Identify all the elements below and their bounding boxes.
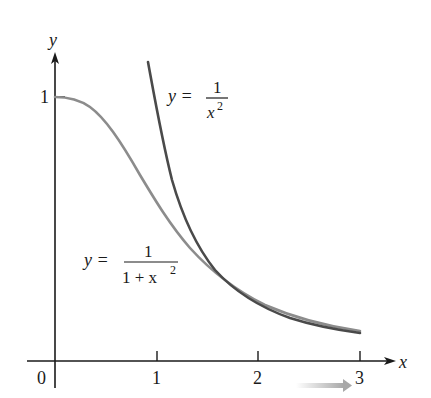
- label-curve-1-over-1-plus-x-squared: y = 1 1 + x 2: [82, 242, 178, 287]
- y-tick-label-1: 1: [40, 87, 49, 107]
- label-curve-1-over-x-squared: y = 1 x 2: [166, 78, 228, 122]
- right-arrow-icon: [296, 379, 352, 392]
- origin-label: 0: [37, 368, 46, 388]
- label-lhs: y =: [166, 86, 193, 106]
- x-tick-label-1: 1: [152, 368, 161, 388]
- label-denominator-exponent: 2: [217, 99, 223, 113]
- x-axis-label: x: [398, 352, 407, 372]
- label-denominator-base: 1 + x: [122, 268, 158, 287]
- label-numerator: 1: [144, 242, 153, 261]
- x-tick-label-2: 2: [253, 368, 262, 388]
- chart-canvas: y x 0 1 2 3 1 y = 1 x 2 y = 1 1 + x 2: [0, 0, 431, 398]
- y-axis-label: y: [47, 30, 57, 50]
- curve-1-over-1-plus-x-squared: [55, 97, 360, 331]
- x-tick-label-3: 3: [355, 368, 364, 388]
- label-denominator-exponent: 2: [170, 263, 176, 277]
- label-numerator: 1: [213, 78, 222, 97]
- label-lhs: y =: [82, 250, 109, 270]
- label-denominator-base: x: [206, 103, 215, 122]
